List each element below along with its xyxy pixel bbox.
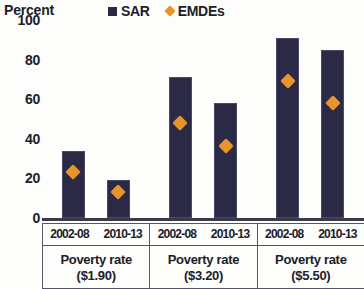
x-group-label-line2-1: ($3.20) — [184, 268, 223, 283]
legend-item-sar: SAR — [108, 3, 150, 19]
legend-label-sar: SAR — [121, 3, 150, 19]
bar-sar-2 — [169, 77, 192, 218]
x-group-label-0: Poverty rate($1.90) — [43, 245, 149, 288]
x-group-label-line1-1: Poverty rate — [168, 252, 240, 267]
x-tick-label-1-1: 2010-13 — [204, 224, 257, 245]
legend-label-emdes: EMDEs — [178, 3, 225, 19]
plot-area — [42, 20, 364, 221]
legend-item-emdes: EMDEs — [166, 3, 225, 19]
emdes-diamond-swatch-icon — [164, 5, 175, 16]
x-axis-baseline — [42, 218, 364, 221]
x-tick-label-0-0: 2002-08 — [43, 224, 96, 245]
y-axis-tick-20: 20 — [6, 170, 40, 186]
x-group-periods-1: 2002-082010-13 — [150, 224, 256, 245]
x-group-0: 2002-082010-13Poverty rate($1.90) — [43, 224, 150, 288]
y-axis: 020406080100 — [0, 0, 40, 289]
y-axis-tick-40: 40 — [6, 131, 40, 147]
x-group-label-line2-2: ($5.50) — [291, 268, 330, 283]
x-group-label-line1-0: Poverty rate — [60, 252, 132, 267]
y-axis-tick-100: 100 — [6, 12, 40, 28]
x-group-periods-0: 2002-082010-13 — [43, 224, 149, 245]
x-tick-label-2-1: 2010-13 — [311, 224, 364, 245]
x-tick-label-0-1: 2010-13 — [96, 224, 149, 245]
bar-sar-3 — [214, 103, 237, 218]
bar-sar-4 — [276, 38, 299, 218]
x-group-label-1: Poverty rate($3.20) — [150, 245, 256, 288]
x-group-label-line2-0: ($1.90) — [77, 268, 116, 283]
x-group-periods-2: 2002-082010-13 — [258, 224, 364, 245]
y-axis-tick-60: 60 — [6, 91, 40, 107]
x-tick-label-2-0: 2002-08 — [258, 224, 311, 245]
y-axis-tick-0: 0 — [6, 210, 40, 226]
poverty-rate-bar-chart: Percent SAR EMDEs 020406080100 2002-0820… — [0, 0, 364, 289]
x-group-label-line1-2: Poverty rate — [275, 252, 347, 267]
x-tick-label-1-0: 2002-08 — [150, 224, 203, 245]
x-group-label-2: Poverty rate($5.50) — [258, 245, 364, 288]
x-axis-label-table: 2002-082010-13Poverty rate($1.90)2002-08… — [42, 223, 364, 289]
bar-sar-5 — [321, 50, 344, 218]
bar-sar-0 — [62, 151, 85, 218]
x-group-1: 2002-082010-13Poverty rate($3.20) — [150, 224, 257, 288]
sar-square-swatch-icon — [108, 7, 117, 16]
chart-legend: SAR EMDEs — [108, 3, 224, 19]
y-axis-tick-80: 80 — [6, 52, 40, 68]
x-group-2: 2002-082010-13Poverty rate($5.50) — [258, 224, 364, 288]
